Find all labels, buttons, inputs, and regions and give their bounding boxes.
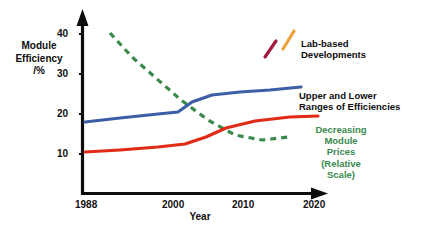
x-tick-label-2010: 2010 [232, 199, 254, 210]
y-tick-label-10: 10 [57, 148, 68, 159]
annotation-module-prices: Decreasing Module Prices (Relative Scale… [300, 124, 382, 180]
y-tick-label-40: 40 [57, 28, 68, 39]
y-tick-label-30: 30 [57, 68, 68, 79]
efficiency-chart: Module Efficiency /% Year 40 30 20 10 19… [0, 0, 422, 234]
series-lab-high [283, 31, 294, 49]
y-tick-label-20: 20 [57, 108, 68, 119]
annotation-efficiency-ranges: Upper and Lower Ranges of Efficiencies [299, 90, 400, 112]
x-tick-label-2000: 2000 [162, 199, 184, 210]
series-upper-range [85, 87, 301, 122]
x-tick-label-2020: 2020 [303, 199, 325, 210]
series-lower-range [85, 116, 318, 152]
x-axis [81, 188, 328, 200]
series-module-prices [110, 33, 288, 140]
x-axis-title: Year [175, 211, 225, 222]
series-lab-low [265, 41, 276, 57]
x-tick-label-1988: 1988 [75, 199, 97, 210]
annotation-lab-based: Lab-based Developments [301, 38, 366, 60]
y-axis [77, 9, 89, 194]
